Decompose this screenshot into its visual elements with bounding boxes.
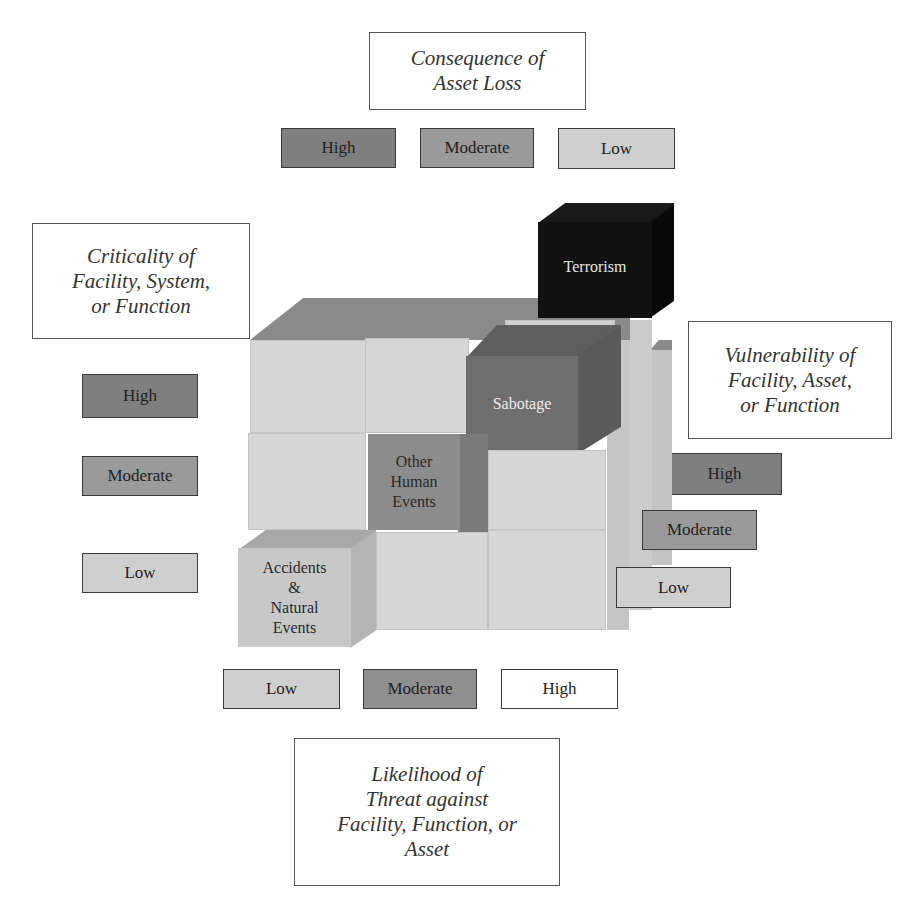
likelihood-title-line-2: Threat against	[366, 787, 488, 812]
cube-right-slice-back-top	[650, 340, 672, 350]
other-human-line-2: Human	[390, 472, 437, 492]
vulnerability-title-line-2: Facility, Asset,	[728, 368, 852, 393]
criticality-title-line-1: Criticality of	[87, 244, 195, 269]
level-label: High	[543, 679, 577, 699]
consequence-level-moderate: Moderate	[420, 128, 534, 168]
level-label: High	[322, 138, 356, 158]
likelihood-title-line-1: Likelihood of	[371, 762, 482, 787]
criticality-level-moderate: Moderate	[82, 456, 198, 496]
accidents-label: Accidents & Natural Events	[238, 548, 351, 647]
cube-cell-mid-right	[488, 450, 606, 530]
cube-cell-top-left	[250, 340, 366, 433]
likelihood-title-line-3: Facility, Function, or	[337, 812, 517, 837]
likelihood-level-high: High	[501, 669, 618, 709]
consequence-title-line-2: Asset Loss	[433, 71, 521, 96]
sabotage-text: Sabotage	[493, 394, 552, 414]
likelihood-title-line-4: Asset	[405, 837, 449, 862]
consequence-title-box: Consequence of Asset Loss	[369, 32, 586, 110]
level-label: Low	[601, 139, 632, 159]
level-label: Moderate	[667, 520, 732, 540]
cube-cell-bottom-right	[488, 530, 606, 630]
criticality-title-line-3: or Function	[91, 294, 191, 319]
vulnerability-title-box: Vulnerability of Facility, Asset, or Fun…	[688, 321, 892, 439]
consequence-level-high: High	[281, 128, 396, 168]
level-label: High	[708, 464, 742, 484]
terrorism-label: Terrorism	[538, 222, 652, 312]
other-human-line-1: Other	[396, 452, 432, 472]
other-human-block-side	[458, 434, 488, 534]
criticality-level-low: Low	[82, 553, 198, 593]
terrorism-text: Terrorism	[564, 257, 627, 277]
accidents-line-1: Accidents	[263, 558, 327, 578]
consequence-title-line-1: Consequence of	[411, 46, 545, 71]
other-human-label: Other Human Events	[368, 434, 460, 530]
terrorism-block-side	[650, 205, 674, 318]
likelihood-level-low: Low	[223, 669, 340, 709]
vulnerability-level-high: High	[667, 453, 782, 495]
level-label: Low	[266, 679, 297, 699]
criticality-title-line-2: Facility, System,	[72, 269, 210, 294]
likelihood-level-moderate: Moderate	[363, 669, 477, 709]
accidents-line-4: Events	[273, 618, 317, 638]
level-label: Low	[124, 563, 155, 583]
cube-cell-top-mid	[365, 338, 469, 433]
vulnerability-level-moderate: Moderate	[642, 510, 757, 550]
level-label: Moderate	[387, 679, 452, 699]
cube-cell-bottom-mid	[376, 532, 488, 630]
level-label: Moderate	[107, 466, 172, 486]
vulnerability-title-line-3: or Function	[740, 393, 840, 418]
accidents-line-2: &	[288, 578, 300, 598]
other-human-line-3: Events	[392, 492, 436, 512]
consequence-level-low: Low	[558, 128, 675, 169]
level-label: High	[123, 386, 157, 406]
level-label: Moderate	[444, 138, 509, 158]
vulnerability-title-line-1: Vulnerability of	[725, 343, 856, 368]
level-label: Low	[658, 578, 689, 598]
criticality-title-box: Criticality of Facility, System, or Func…	[32, 223, 250, 339]
likelihood-title-box: Likelihood of Threat against Facility, F…	[294, 738, 560, 886]
accidents-line-3: Natural	[271, 598, 319, 618]
criticality-level-high: High	[82, 374, 198, 418]
vulnerability-level-low: Low	[616, 567, 731, 608]
cube-cell-mid-left	[248, 433, 366, 530]
accidents-block-side	[350, 531, 376, 648]
